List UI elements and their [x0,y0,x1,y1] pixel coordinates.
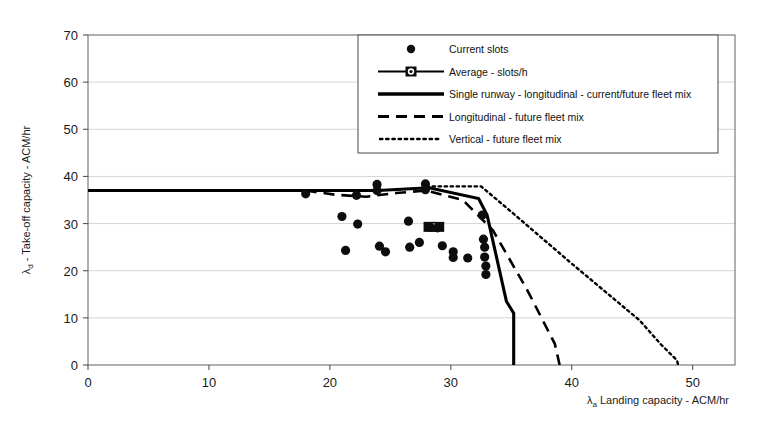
capacity-envelope-chart: 010203040506070 01020304050 Current slot… [0,0,760,438]
legend-circle-marker-icon [407,45,415,53]
scatter-point [337,212,346,221]
scatter-point [341,246,350,255]
scatter-point [372,186,381,195]
x-axis-title-text: Landing capacity - ACM/hr [597,394,729,406]
scatter-point [480,252,489,261]
scatter-point [438,241,447,250]
legend-square-dot-icon [409,70,412,73]
scatter-point [353,219,362,228]
legend-label-3: Longitudinal - future fleet mix [449,111,585,123]
scatter-point [421,185,430,194]
legend-label-0: Current slots [449,43,509,55]
legend-label-1: Average - slots/h [449,66,528,78]
scatter-point [433,223,442,232]
x-tick-label-50: 50 [685,375,699,390]
y-tick-label-20: 20 [64,264,78,279]
x-tick-label-20: 20 [323,375,337,390]
chart-legend[interactable]: Current slotsAverage - slots/hSingle run… [358,35,718,153]
y-tick-label-40: 40 [64,169,78,184]
y-tick-label-0: 0 [71,358,78,373]
scatter-point [479,235,488,244]
y-axis-title-text: - Take-off capacity - ACM/hr [20,126,32,265]
scatter-point [352,191,361,200]
scatter-point [481,270,490,279]
y-tick-label-10: 10 [64,311,78,326]
chart-root: 010203040506070 01020304050 Current slot… [0,0,760,438]
scatter-point [463,253,472,262]
scatter-point [301,189,310,198]
x-tick-label-10: 10 [202,375,216,390]
scatter-point [415,238,424,247]
scatter-point [481,261,490,270]
legend-label-2: Single runway - longitudinal - current/f… [449,88,692,100]
legend-label-4: Vertical - future fleet mix [449,133,562,145]
scatter-point [478,210,487,219]
scatter-point [404,217,413,226]
scatter-point [405,243,414,252]
y-tick-label-60: 60 [64,75,78,90]
x-tick-label-0: 0 [84,375,91,390]
scatter-point [381,247,390,256]
x-tick-label-30: 30 [444,375,458,390]
scatter-point [480,243,489,252]
scatter-point [449,253,458,262]
y-tick-label-50: 50 [64,122,78,137]
x-tick-label-40: 40 [565,375,579,390]
y-tick-label-30: 30 [64,217,78,232]
y-tick-label-70: 70 [64,28,78,43]
